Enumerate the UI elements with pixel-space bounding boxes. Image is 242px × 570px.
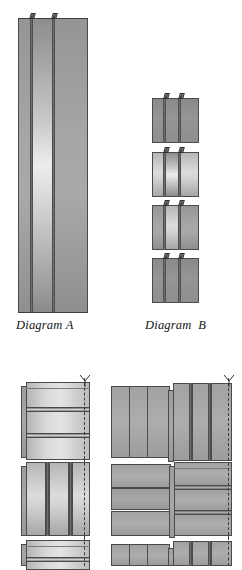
assembly-right-row1-hinge: [228, 378, 229, 466]
assembly-right-row2-right-band-1: [174, 462, 232, 486]
diagram-a-divider-2: [52, 18, 55, 313]
assembly-left-row1-hinge: [84, 378, 85, 464]
diagram-b-caption: Diagram B: [145, 318, 206, 333]
assembly-left-row3-band-1: [26, 540, 90, 558]
assembly-right-row1-right-2: [192, 383, 209, 461]
assembly-left-row1-band-3: [26, 437, 90, 460]
assembly-right-row3-right-div-2: [208, 541, 211, 566]
diagram-a-panel-right: [53, 18, 88, 313]
assembly-right-row1-left-line-2: [147, 386, 148, 458]
assembly-left-row3-top-rule: [26, 546, 90, 547]
assembly-right-row3-right-1: [173, 541, 190, 566]
assembly-right-row1-left-line-1: [129, 386, 130, 458]
assembly-right-row2-right-band-3: [174, 514, 232, 536]
assembly-left-row1-band-2: [26, 411, 90, 434]
assembly-right-row3-hinge: [228, 536, 229, 566]
block4-divider-1: [163, 258, 166, 303]
assembly-left-row2-divider-1: [46, 462, 49, 536]
block3-panel-right: [179, 205, 199, 250]
assembly-left-row1-top-rule: [26, 388, 90, 389]
assembly-right-row3-left-2: [129, 544, 148, 566]
block4-panel-right: [179, 258, 199, 303]
assembly-left-row2-divider-2: [69, 462, 72, 536]
block3-divider-1: [163, 205, 166, 250]
block1-panel-right: [179, 98, 199, 143]
assembly-right-row1-right-div-1: [189, 383, 192, 461]
assembly-right-row2-left-band-2: [111, 488, 171, 510]
diagram-a-divider-1: [30, 18, 33, 313]
assembly-left-row3-band-2: [26, 561, 90, 570]
assembly-right-row3-left-1: [111, 544, 130, 566]
assembly-right-row1-left-2: [129, 386, 148, 458]
diagram-a-caption: Diagram A: [16, 318, 73, 333]
y-arrow-mark: [222, 374, 236, 388]
assembly-right-row1-left-1: [111, 386, 130, 458]
block2-divider-1: [163, 152, 166, 197]
assembly-left-row3-hinge: [84, 536, 85, 566]
assembly-right-row1-right-div-2: [208, 383, 211, 461]
assembly-left-row2-panel-2: [49, 462, 69, 536]
assembly-right-row1-right-1: [173, 383, 190, 461]
assembly-right-row3-left-3: [147, 544, 170, 566]
assembly-right-row3-left-line-2: [147, 544, 148, 566]
y-arrow-mark: [78, 374, 92, 388]
assembly-left-row2-hinge: [84, 458, 85, 540]
assembly-right-row2-right-band-2: [174, 489, 232, 511]
assembly-right-row3-right-2: [192, 541, 209, 566]
assembly-right-row2-right-top-rule: [174, 468, 232, 469]
diagram-a-bottom-edge: [18, 312, 88, 313]
assembly-right-row3-right-div-1: [189, 541, 192, 566]
assembly-right-row2-left-band-3: [111, 511, 171, 536]
assembly-right-row2-hinge: [228, 458, 229, 540]
assembly-left-row2-panel-1: [26, 462, 46, 536]
assembly-right-row3-left-line-1: [129, 544, 130, 566]
assembly-left-row2-panel-3: [72, 462, 90, 536]
block4-divider-2: [178, 258, 181, 303]
assembly-right-row1-left-3: [147, 386, 170, 458]
block2-panel-right: [179, 152, 199, 197]
block3-divider-2: [178, 205, 181, 250]
diagram-a-panel-center: [31, 18, 54, 313]
block1-divider-1: [163, 98, 166, 143]
block1-divider-2: [178, 98, 181, 143]
assembly-right-row2-left-band-1: [111, 464, 171, 488]
block2-divider-2: [178, 152, 181, 197]
